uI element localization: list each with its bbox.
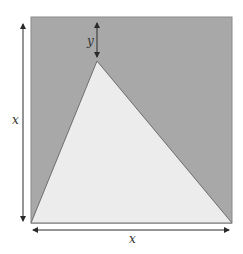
vertical-side-label: x bbox=[12, 113, 19, 127]
square-triangle-diagram: x x y bbox=[0, 0, 243, 254]
horizontal-side-label: x bbox=[129, 232, 136, 246]
apex-offset-label: y bbox=[86, 34, 94, 48]
